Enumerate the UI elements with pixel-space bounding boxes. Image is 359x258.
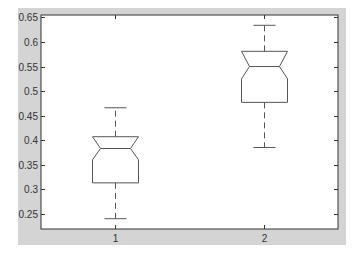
y-tick-label: 0.55 [19,62,39,73]
y-tick-label: 0.25 [19,209,39,220]
y-tick-label: 0.6 [24,37,38,48]
x-tick-label: 2 [262,233,268,244]
axes: 0.250.30.350.40.450.50.550.60.6512 [19,12,338,244]
y-tick-label: 0.3 [24,184,38,195]
y-tick-label: 0.5 [24,86,38,97]
x-tick-label: 1 [113,233,119,244]
y-tick-label: 0.65 [19,12,39,23]
boxplot-figure: 0.250.30.350.40.450.50.550.60.6512 [0,0,359,258]
y-tick-label: 0.35 [19,160,39,171]
y-tick-label: 0.45 [19,111,39,122]
y-tick-label: 0.4 [24,135,38,146]
plot-area [41,15,338,229]
